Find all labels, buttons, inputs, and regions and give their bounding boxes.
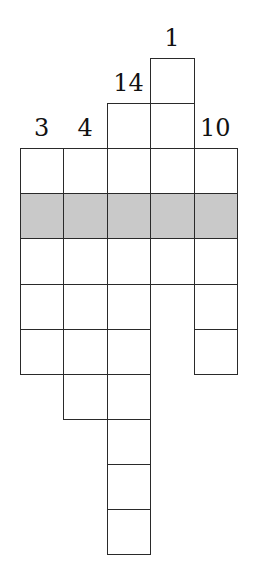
column-label: 3 (20, 116, 63, 140)
grid-cell[interactable] (63, 329, 108, 375)
column-label: 14 (107, 71, 150, 95)
grid-cell[interactable] (63, 284, 108, 330)
grid-cell[interactable] (107, 329, 152, 375)
grid-cell[interactable] (107, 419, 152, 465)
grid-cell[interactable] (194, 238, 239, 284)
grid-cell[interactable] (194, 329, 239, 375)
puzzle-grid: 3414110 (0, 0, 266, 575)
grid-cell[interactable] (107, 148, 152, 194)
grid-cell[interactable] (150, 103, 195, 149)
column-label: 1 (150, 26, 193, 50)
grid-cell[interactable] (20, 238, 65, 284)
grid-cell[interactable] (150, 148, 195, 194)
grid-cell[interactable] (63, 238, 108, 284)
grid-cell[interactable] (194, 284, 239, 330)
shaded-cell[interactable] (107, 193, 152, 239)
grid-cell[interactable] (63, 148, 108, 194)
grid-cell[interactable] (107, 284, 152, 330)
grid-cell[interactable] (63, 374, 108, 420)
grid-cell[interactable] (20, 284, 65, 330)
grid-cell[interactable] (20, 148, 65, 194)
column-label: 4 (63, 116, 106, 140)
shaded-cell[interactable] (150, 193, 195, 239)
shaded-cell[interactable] (63, 193, 108, 239)
grid-cell[interactable] (150, 58, 195, 104)
shaded-cell[interactable] (20, 193, 65, 239)
grid-cell[interactable] (150, 238, 195, 284)
grid-cell[interactable] (107, 464, 152, 510)
column-label: 10 (194, 116, 237, 140)
grid-cell[interactable] (20, 329, 65, 375)
grid-cell[interactable] (107, 238, 152, 284)
shaded-cell[interactable] (194, 193, 239, 239)
grid-cell[interactable] (194, 148, 239, 194)
grid-cell[interactable] (107, 374, 152, 420)
grid-cell[interactable] (107, 103, 152, 149)
grid-cell[interactable] (107, 509, 152, 555)
